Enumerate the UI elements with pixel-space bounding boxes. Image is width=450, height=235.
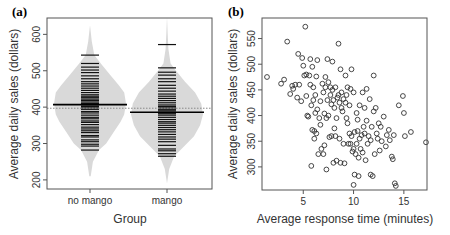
data-point bbox=[355, 117, 360, 122]
data-point bbox=[326, 80, 331, 85]
data-point bbox=[362, 106, 367, 111]
data-point bbox=[323, 75, 328, 80]
data-point bbox=[300, 56, 305, 61]
data-point bbox=[337, 100, 342, 105]
y-tick-label: 550 bbox=[246, 30, 257, 47]
data-point bbox=[374, 131, 379, 136]
data-point bbox=[295, 95, 300, 100]
y-tick-label: 600 bbox=[31, 26, 42, 43]
y-tick-label: 400 bbox=[31, 98, 42, 115]
data-point bbox=[328, 93, 333, 98]
data-point bbox=[349, 67, 354, 72]
data-point bbox=[325, 57, 330, 62]
data-point bbox=[367, 97, 372, 102]
data-point bbox=[322, 143, 327, 148]
data-point bbox=[386, 127, 391, 132]
data-point bbox=[299, 99, 304, 104]
data-point bbox=[311, 85, 316, 90]
data-point bbox=[363, 158, 368, 163]
data-point bbox=[355, 129, 360, 134]
data-point bbox=[339, 90, 344, 95]
data-point bbox=[372, 152, 377, 157]
data-point bbox=[323, 85, 328, 90]
x-tick-label: 15 bbox=[398, 196, 410, 207]
data-point bbox=[334, 116, 339, 121]
data-point bbox=[318, 99, 323, 104]
panel-b-scatter-plot: (b) 300350400450500550 51015 Average res… bbox=[226, 4, 433, 226]
data-point bbox=[318, 122, 323, 127]
data-point bbox=[285, 39, 290, 44]
data-point bbox=[315, 58, 320, 63]
x-tick-label: 5 bbox=[300, 196, 306, 207]
data-point bbox=[288, 92, 293, 97]
data-point bbox=[304, 94, 309, 99]
data-point bbox=[409, 130, 414, 135]
violin-shapes bbox=[54, 17, 203, 184]
y-tick-label: 500 bbox=[246, 55, 257, 72]
data-point bbox=[383, 144, 388, 149]
data-point bbox=[381, 114, 386, 119]
data-point bbox=[313, 93, 318, 98]
x-tick-label: mango bbox=[152, 195, 183, 206]
y-tick-label: 500 bbox=[31, 62, 42, 79]
data-point bbox=[354, 141, 359, 146]
chart-canvas: (a) 200300400500600 no mangomango Group … bbox=[0, 0, 450, 235]
data-point bbox=[332, 126, 337, 131]
data-point bbox=[352, 130, 357, 135]
y-tick-label: 300 bbox=[31, 135, 42, 152]
data-point bbox=[369, 124, 374, 129]
panel-b-label: (b) bbox=[228, 4, 244, 19]
data-point bbox=[360, 90, 365, 95]
data-point bbox=[325, 98, 330, 103]
data-point bbox=[301, 63, 306, 68]
data-point bbox=[321, 152, 326, 157]
data-point bbox=[338, 67, 343, 72]
y-axis-title: Average daily sales (dollars) bbox=[226, 29, 240, 180]
data-point bbox=[345, 121, 350, 126]
data-point bbox=[307, 73, 312, 78]
y-tick-label: 300 bbox=[246, 158, 257, 175]
figure: (a) 200300400500600 no mangomango Group … bbox=[0, 0, 450, 235]
x-axis-ticks: no mangomango bbox=[68, 189, 183, 206]
data-point bbox=[356, 155, 361, 160]
scatter-points bbox=[265, 24, 429, 188]
data-point bbox=[351, 90, 356, 95]
data-point bbox=[337, 136, 342, 141]
data-point bbox=[341, 141, 346, 146]
data-point bbox=[317, 116, 322, 121]
data-point bbox=[324, 167, 329, 172]
y-axis-title: Average daily sales (dollars) bbox=[7, 29, 21, 180]
y-axis-ticks: 200300400500600 bbox=[31, 26, 47, 189]
data-point bbox=[290, 83, 295, 88]
data-point bbox=[357, 103, 362, 108]
y-tick-label: 450 bbox=[246, 81, 257, 98]
data-point bbox=[424, 140, 429, 145]
data-point bbox=[265, 75, 270, 80]
x-axis-title: Average response time (minutes) bbox=[257, 212, 434, 226]
data-point bbox=[347, 103, 352, 108]
data-point bbox=[306, 114, 311, 119]
data-point bbox=[309, 164, 314, 169]
x-tick-label: no mango bbox=[68, 195, 113, 206]
data-point bbox=[364, 87, 369, 92]
data-point bbox=[387, 138, 392, 143]
panel-a-violin-plot: (a) 200300400500600 no mangomango Group … bbox=[7, 4, 212, 226]
data-point bbox=[377, 148, 382, 153]
panel-a-label: (a) bbox=[12, 4, 27, 19]
data-point bbox=[371, 73, 376, 78]
y-tick-label: 400 bbox=[246, 107, 257, 124]
x-axis-title: Group bbox=[113, 212, 147, 226]
data-point bbox=[332, 106, 337, 111]
data-point bbox=[303, 24, 308, 29]
data-point bbox=[344, 116, 349, 121]
data-point bbox=[343, 73, 348, 78]
data-point bbox=[312, 136, 317, 141]
data-point bbox=[296, 52, 301, 57]
data-point bbox=[321, 90, 326, 95]
data-point bbox=[314, 74, 319, 79]
x-tick-label: 10 bbox=[348, 196, 360, 207]
data-point bbox=[311, 98, 316, 103]
data-point bbox=[391, 133, 396, 138]
data-point bbox=[282, 77, 287, 82]
data-point bbox=[396, 103, 401, 108]
